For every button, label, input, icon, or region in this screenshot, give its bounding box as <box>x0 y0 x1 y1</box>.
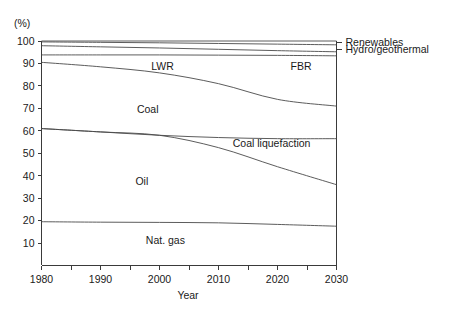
chart-canvas: (%) 102030405060708090100 19801990200020… <box>0 0 449 317</box>
y-tick-label: 100 <box>17 35 35 47</box>
x-tick-label: 2020 <box>266 273 290 285</box>
y-tick-label: 30 <box>23 192 35 204</box>
y-tick-label: 60 <box>23 125 35 137</box>
area-label: Coal <box>137 103 159 115</box>
x-tick-label: 2010 <box>207 273 231 285</box>
x-axis-title: Year <box>177 289 199 301</box>
area-label: FBR <box>291 60 312 72</box>
y-axis-unit-label-group: (%) <box>14 17 30 29</box>
y-tick-label: 40 <box>23 170 35 182</box>
legend-label: Hydro/geothermal <box>346 43 429 55</box>
x-tick-label: 1990 <box>89 273 113 285</box>
y-tick-label: 20 <box>23 214 35 226</box>
y-tick-label: 10 <box>23 237 35 249</box>
y-tick-label: 70 <box>23 102 35 114</box>
area-label: Oil <box>135 175 148 187</box>
y-tick-label: 90 <box>23 57 35 69</box>
y-axis-unit-label: (%) <box>14 17 30 29</box>
x-tick-label: 2000 <box>148 273 172 285</box>
y-tick-label: 80 <box>23 80 35 92</box>
energy-share-chart: (%) 102030405060708090100 19801990200020… <box>0 0 449 317</box>
y-tick-label: 50 <box>23 147 35 159</box>
area-label: Nat. gas <box>146 234 185 246</box>
x-tick-label: 1980 <box>30 273 54 285</box>
area-label: LWR <box>151 60 174 72</box>
area-label: Coal liquefaction <box>233 137 311 149</box>
x-tick-label: 2030 <box>325 273 349 285</box>
